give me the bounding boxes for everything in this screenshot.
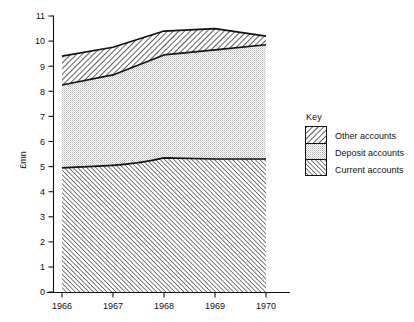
legend-swatch-current-accounts [306,159,326,175]
y-tick-label-9: 9 [40,62,45,72]
x-tick-label-1970: 1970 [256,301,276,311]
legend-swatch-deposit-accounts [306,143,326,159]
chart-container: 11 10 9 8 7 6 5 4 3 2 1 0 1966 1967 1968… [0,0,414,322]
legend-item-current-accounts: Current accounts [335,162,414,179]
y-tick-label-5: 5 [40,162,45,172]
x-tick-label-1966: 1966 [52,301,72,311]
legend-label-current-accounts: Current accounts [335,165,404,175]
y-axis-title: £mn [18,151,28,169]
x-tick-label-1967: 1967 [103,301,123,311]
x-tick-label-1969: 1969 [205,301,225,311]
legend-item-other-accounts: Other accounts [335,127,414,144]
y-tick-label-6: 6 [40,137,45,147]
y-tick-label-8: 8 [40,87,45,97]
y-tick-label-10: 10 [35,36,45,46]
legend: Key Other accounts [305,112,413,176]
y-tick-label-11: 11 [36,11,45,21]
x-axis-ticks [62,293,266,298]
legend-swatch-other-accounts [306,127,326,143]
y-tick-label-0: 0 [40,287,45,297]
series-current-accounts [62,158,266,292]
legend-item-deposit-accounts: Deposit accounts [335,144,414,161]
y-tick-label-3: 3 [40,212,45,222]
legend-title: Key [306,112,413,123]
y-tick-label-7: 7 [40,112,45,122]
x-tick-label-1968: 1968 [154,301,174,311]
y-tick-label-4: 4 [40,187,45,197]
legend-label-deposit-accounts: Deposit accounts [335,148,404,158]
legend-label-other-accounts: Other accounts [335,131,396,141]
y-tick-label-1: 1 [40,262,45,272]
legend-labels: Other accounts Deposit accounts Current … [335,127,414,179]
legend-swatch-stack [305,126,327,176]
y-axis-ticks [49,16,54,292]
y-tick-label-2: 2 [40,237,45,247]
